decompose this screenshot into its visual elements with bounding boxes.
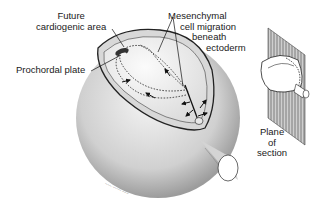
- label-plane-of-section: Plane of section: [257, 127, 287, 159]
- label-line: section: [257, 148, 287, 159]
- label-mesenchymal-cell-migration: Mesenchymal cell migration beneath ectod…: [168, 11, 246, 53]
- label-line: Plane: [257, 127, 287, 138]
- label-line: beneath: [192, 32, 246, 43]
- label-text: Prochordal plate: [16, 64, 85, 75]
- label-line: cardiogenic area: [36, 22, 106, 33]
- label-future-cardiogenic-area: Future cardiogenic area: [36, 11, 106, 32]
- label-line: ectoderm: [206, 43, 246, 54]
- label-prochordal-plate: Prochordal plate: [16, 65, 85, 76]
- label-line: Mesenchymal: [168, 11, 246, 22]
- label-line: Future: [36, 11, 106, 22]
